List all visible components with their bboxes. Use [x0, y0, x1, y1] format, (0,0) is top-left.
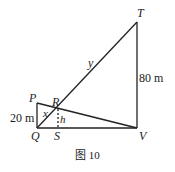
label-y: y — [87, 56, 94, 70]
label-q: Q — [31, 129, 40, 143]
label-s: S — [54, 129, 60, 143]
label-80m: 80 m — [139, 71, 164, 85]
label-t: T — [137, 6, 145, 20]
label-20m: 20 m — [10, 111, 35, 125]
label-r: R — [51, 95, 60, 109]
label-p: P — [28, 91, 37, 105]
label-h: h — [60, 113, 66, 125]
figure-caption: 图 10 — [75, 149, 100, 161]
geometry-diagram: T y 80 m P R 20 m x h Q S V 图 10 — [0, 0, 175, 172]
segment-qt — [37, 22, 137, 128]
label-v: V — [139, 129, 148, 143]
label-x: x — [42, 107, 48, 119]
